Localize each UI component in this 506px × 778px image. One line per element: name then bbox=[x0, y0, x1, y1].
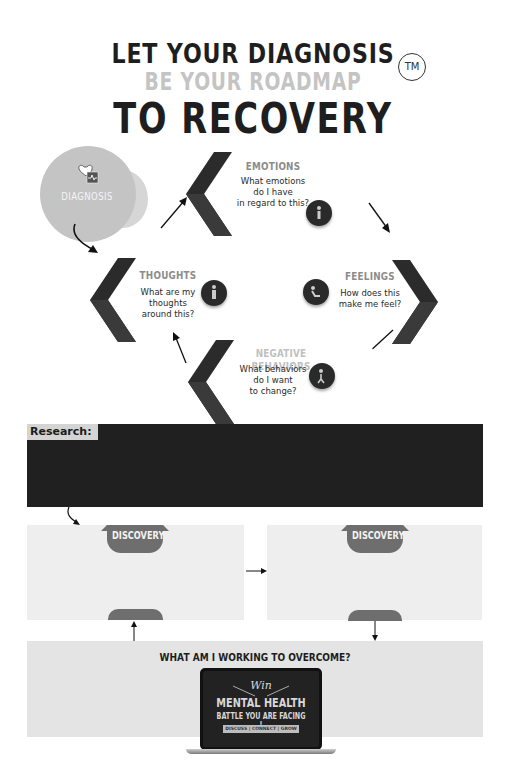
arrow-up-right-icon bbox=[158, 195, 190, 231]
feelings-title: FEELINGS bbox=[338, 270, 402, 283]
thinking-person-icon bbox=[201, 280, 227, 306]
feelings-text: How does this make me feel? bbox=[330, 288, 410, 310]
curved-arrow-icon bbox=[70, 222, 110, 258]
laptop-screen: Win MENTAL HEALTH BATTLE YOU ARE FACING … bbox=[200, 668, 322, 750]
heart-clipboard-icon bbox=[78, 164, 100, 184]
laptop-base bbox=[186, 749, 336, 754]
title-line-3: TO RECOVERY bbox=[51, 96, 456, 142]
discovery-footer-tab-right bbox=[348, 610, 402, 621]
overcome-title: WHAT AM I WORKING TO OVERCOME? bbox=[68, 651, 442, 664]
sitting-person-icon bbox=[303, 279, 329, 305]
thoughts-title: THOUGHTS bbox=[136, 269, 200, 282]
emotions-text: What emotions do I have in regard to thi… bbox=[228, 176, 318, 209]
diagnosis-label: DIAGNOSIS bbox=[52, 191, 122, 202]
laptop-headline: MENTAL HEALTH bbox=[216, 695, 306, 710]
negative-behaviors-text: What behaviors do I want to change? bbox=[228, 364, 318, 397]
arrow-down-icon bbox=[370, 621, 380, 641]
laptop-pill: DISCUSS | CONNECT | GROW bbox=[223, 725, 299, 733]
arrow-up-left-icon bbox=[170, 330, 190, 366]
walking-person-icon bbox=[309, 363, 335, 389]
emotions-title: EMOTIONS bbox=[237, 160, 309, 173]
thoughts-text: What are my thoughts around this? bbox=[128, 287, 208, 320]
chevron-left-icon bbox=[186, 152, 232, 236]
discovery-tab-left: DISCOVERY bbox=[107, 525, 163, 553]
person-icon bbox=[306, 200, 332, 226]
title-line-2: BE YOUR ROADMAP bbox=[56, 68, 451, 96]
research-label: Research: bbox=[27, 424, 98, 440]
arrow-down-right-icon bbox=[366, 200, 394, 236]
discovery-footer-tab-left bbox=[108, 609, 163, 620]
arrow-up-icon bbox=[129, 621, 139, 641]
discovery-tab-right: DISCOVERY bbox=[347, 525, 403, 553]
trademark-badge: TM bbox=[398, 53, 426, 81]
arrow-right-icon bbox=[246, 566, 268, 576]
